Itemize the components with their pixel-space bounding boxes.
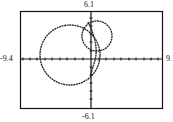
ymax-label: 6.1 bbox=[84, 1, 94, 9]
ymin-label: -6.1 bbox=[82, 113, 95, 121]
small-circle-curve bbox=[82, 21, 112, 51]
xmax-label: 9. bbox=[166, 55, 172, 63]
graph-canvas bbox=[0, 0, 173, 122]
xmin-label: -9.4 bbox=[0, 55, 13, 63]
